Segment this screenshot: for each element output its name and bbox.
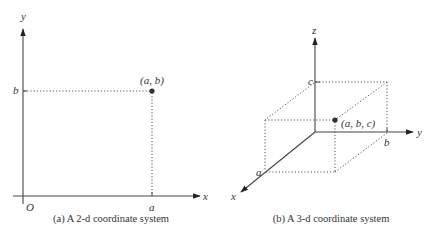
x-axis-label-3d: x <box>230 190 236 202</box>
figure-2d: y x O a b (a, b) (a) A 2-d coordinate sy… <box>13 10 208 225</box>
y-axis-label-2d: y <box>20 10 26 22</box>
origin-label: O <box>26 201 34 213</box>
z-axis-label: z <box>311 24 317 36</box>
caption-3d: (b) A 3-d coordinate system <box>273 213 390 225</box>
point-label-3d: (a, b, c) <box>341 117 376 130</box>
x-axis-label-2d: x <box>202 190 208 202</box>
point-label-2d: (a, b) <box>140 74 164 87</box>
y-axis-label-3d: y <box>416 126 422 138</box>
x-tick-label-a-3d: a <box>256 166 262 178</box>
caption-2d: (a) A 2-d coordinate system <box>53 213 169 225</box>
point-a-b-c <box>332 117 337 122</box>
point-a-b <box>149 88 154 93</box>
z-tick-label-c: c <box>308 75 313 87</box>
y-tick-label-b: b <box>13 84 19 96</box>
coordinate-systems-figure: y x O a b (a, b) (a) A 2-d coordinate sy… <box>0 0 435 236</box>
x-axis-3d <box>241 132 315 192</box>
figure-3d: z y x c b a (a, b, c) (b) A 3-d coordina… <box>230 24 422 225</box>
y-tick-label-b-3d: b <box>384 136 390 148</box>
x-tick-label-a: a <box>149 201 155 213</box>
